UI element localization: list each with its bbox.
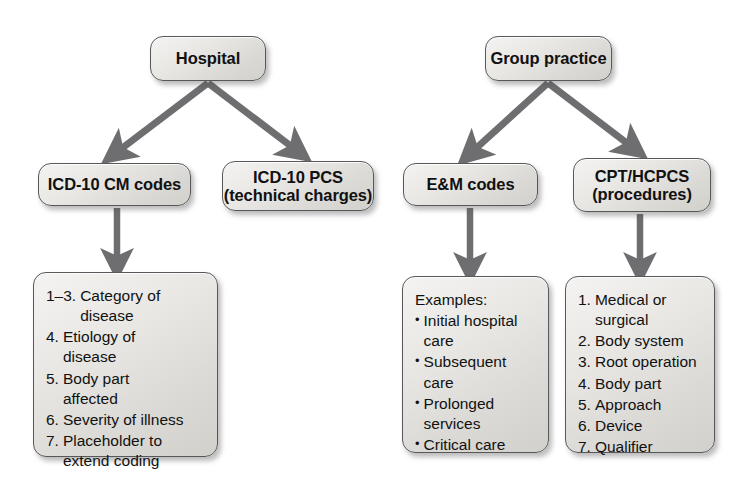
- list-item-text: Category of disease: [80, 286, 206, 326]
- list-item-text: Body part affected: [63, 369, 206, 409]
- em-detail-list: Examples: •Initial hospital care•Subsequ…: [415, 290, 537, 456]
- list-item-marker: •: [415, 311, 420, 329]
- list-item: •Initial hospital care: [415, 311, 537, 351]
- list-item-text: Body part: [595, 374, 703, 394]
- list-item: 7.Qualifier: [578, 437, 703, 457]
- list-item-text: Subsequent care: [424, 352, 537, 392]
- node-group-practice[interactable]: Group practice: [485, 36, 612, 81]
- node-icd10-cm-detail[interactable]: 1–3.Category of disease4.Etiology of dis…: [33, 272, 218, 457]
- list-item-marker: 4.: [578, 374, 591, 394]
- list-item: 3.Root operation: [578, 352, 703, 372]
- list-item-marker: 4.: [46, 327, 59, 347]
- list-item-text: Approach: [595, 395, 703, 415]
- node-em-codes-label: E&M codes: [426, 175, 514, 193]
- diagram-canvas: Hospital Group practice ICD-10 CM codes …: [0, 0, 750, 503]
- list-item-marker: 2.: [578, 331, 591, 351]
- node-em-detail[interactable]: Examples: •Initial hospital care•Subsequ…: [402, 276, 549, 453]
- node-cpt-hcpcs-label: CPT/HCPCS (procedures): [592, 167, 692, 204]
- list-item-text: Medical or surgical: [595, 290, 703, 330]
- list-item-text: Placeholder to extend coding: [63, 431, 206, 471]
- list-item: 2.Body system: [578, 331, 703, 351]
- list-item: 6.Severity of illness: [46, 410, 206, 430]
- list-item-marker: •: [415, 435, 420, 453]
- list-item-text: Body system: [595, 331, 703, 351]
- node-group-practice-label: Group practice: [491, 49, 607, 67]
- list-item: 5.Approach: [578, 395, 703, 415]
- list-item: •Critical care: [415, 435, 537, 455]
- list-item-text: Prolonged services: [424, 394, 537, 434]
- list-item: 7.Placeholder to extend coding: [46, 431, 206, 471]
- list-item-text: Critical care: [424, 435, 537, 455]
- node-cpt-detail[interactable]: 1.Medical or surgical2.Body system3.Root…: [565, 276, 715, 453]
- list-item-marker: •: [415, 352, 420, 370]
- list-item-text: Root operation: [595, 352, 703, 372]
- node-cpt-hcpcs[interactable]: CPT/HCPCS (procedures): [573, 158, 711, 212]
- list-item-marker: 6.: [578, 416, 591, 436]
- list-item-marker: 7.: [46, 431, 59, 451]
- list-item: •Subsequent care: [415, 352, 537, 392]
- cpt-detail-list: 1.Medical or surgical2.Body system3.Root…: [578, 290, 703, 458]
- list-item: •Prolonged services: [415, 394, 537, 434]
- list-item-marker: •: [415, 394, 420, 412]
- list-item-marker: 7.: [578, 437, 591, 457]
- list-item: 4.Etiology of disease: [46, 327, 206, 367]
- node-em-codes[interactable]: E&M codes: [403, 163, 538, 206]
- list-item: 5.Body part affected: [46, 369, 206, 409]
- list-item-marker: 1.: [578, 290, 591, 310]
- arrow-hospital-to-icd10pcs: [208, 83, 296, 150]
- list-item-text: Severity of illness: [63, 410, 206, 430]
- list-item-marker: 3.: [578, 352, 591, 372]
- arrow-group-to-em: [472, 83, 548, 152]
- list-item: 6.Device: [578, 416, 703, 436]
- node-icd10-pcs-label: ICD-10 PCS (technical charges): [224, 168, 373, 205]
- icd10-cm-detail-list: 1–3.Category of disease4.Etiology of dis…: [46, 286, 206, 472]
- list-item: 4.Body part: [578, 374, 703, 394]
- list-item-text: Qualifier: [595, 437, 703, 457]
- node-icd10-cm-codes-label: ICD-10 CM codes: [48, 175, 181, 193]
- list-item-marker: 5.: [578, 395, 591, 415]
- list-item-text: Etiology of disease: [63, 327, 206, 367]
- node-hospital-label: Hospital: [176, 49, 240, 67]
- list-item-marker: 5.: [46, 369, 59, 389]
- em-detail-items: •Initial hospital care•Subsequent care•P…: [415, 311, 537, 455]
- list-item: 1.Medical or surgical: [578, 290, 703, 330]
- arrow-hospital-to-icd10cm: [117, 83, 208, 152]
- arrow-group-to-cpt: [548, 83, 632, 147]
- list-item-marker: 6.: [46, 410, 59, 430]
- list-item-text: Initial hospital care: [424, 311, 537, 351]
- node-hospital[interactable]: Hospital: [150, 36, 266, 81]
- node-icd10-pcs[interactable]: ICD-10 PCS (technical charges): [222, 161, 374, 211]
- node-icd10-cm-codes[interactable]: ICD-10 CM codes: [38, 163, 191, 206]
- list-item: 1–3.Category of disease: [46, 286, 206, 326]
- list-item-marker: 1–3.: [46, 286, 76, 306]
- em-detail-heading: Examples:: [415, 290, 537, 310]
- list-item-text: Device: [595, 416, 703, 436]
